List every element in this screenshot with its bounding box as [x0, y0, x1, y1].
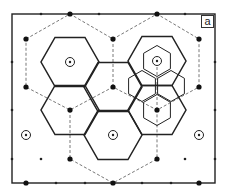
small-dot — [40, 13, 43, 16]
small-dot — [184, 158, 187, 161]
lattice-dot — [23, 180, 28, 185]
circled-site-center — [198, 134, 200, 136]
small-dot — [214, 158, 217, 161]
lattice-dot — [110, 36, 115, 41]
lattice-dot — [67, 107, 72, 112]
lattice-dot — [110, 180, 115, 185]
lattice-dot — [154, 11, 159, 16]
small-dot — [55, 182, 58, 185]
lattice-dot — [67, 11, 72, 16]
small-dot — [11, 61, 14, 64]
small-dot — [214, 109, 217, 112]
small-dot — [184, 13, 187, 16]
small-dot — [11, 109, 14, 112]
lattice-dot — [154, 107, 159, 112]
lattice-dot — [23, 36, 28, 41]
small-dot — [170, 182, 173, 185]
panel-label: a — [201, 15, 214, 28]
small-dot — [214, 61, 217, 64]
lattice-dot — [110, 84, 115, 89]
lattice-dot — [23, 84, 28, 89]
circled-site-center — [156, 60, 158, 62]
lattice-dot — [67, 156, 72, 161]
lattice-dot — [154, 156, 159, 161]
small-dot — [84, 182, 87, 185]
lattice-diagram — [0, 0, 227, 196]
circled-site-center — [69, 61, 71, 63]
small-dot — [40, 158, 43, 161]
small-dot — [98, 13, 101, 16]
lattice-dot — [196, 180, 201, 185]
circled-site-center — [112, 134, 114, 136]
lattice-dot — [196, 84, 201, 89]
circled-site-center — [25, 134, 27, 136]
lattice-dot — [196, 36, 201, 41]
small-dot — [141, 182, 144, 185]
small-dot — [11, 158, 14, 161]
dashed-line — [70, 110, 157, 183]
